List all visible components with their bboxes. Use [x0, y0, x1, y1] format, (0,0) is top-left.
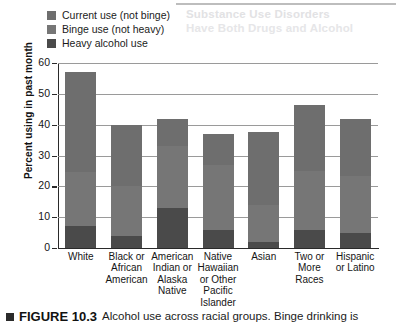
bar-segment-binge-use-not-heavy [111, 186, 142, 235]
bar-segment-current-use-not-binge [65, 72, 96, 172]
bar-segment-current-use-not-binge [203, 134, 234, 165]
y-tick-mark-40 [52, 125, 57, 126]
y-tick-label-20: 20 [10, 179, 50, 191]
y-tick-mark-50 [52, 94, 57, 95]
stacked-bar-chart: Percent using in past month 010203040506… [0, 0, 396, 325]
bar-segment-heavy-alcohol-use [294, 230, 325, 249]
bar-segment-binge-use-not-heavy [157, 146, 188, 208]
y-tick-label-40: 40 [10, 118, 50, 130]
y-tick-mark-0 [52, 248, 57, 249]
bar-segment-heavy-alcohol-use [65, 226, 96, 248]
figure-caption-text: Alcohol use across racial groups. Binge … [102, 309, 358, 323]
bar-segment-binge-use-not-heavy [340, 176, 371, 233]
bar-segment-heavy-alcohol-use [203, 230, 234, 249]
y-tick-mark-60 [52, 63, 57, 64]
plot-area [58, 63, 378, 248]
bar-two-or-more-races [294, 105, 325, 248]
y-tick-label-0: 0 [10, 241, 50, 253]
bar-segment-binge-use-not-heavy [203, 165, 234, 230]
bar-segment-heavy-alcohol-use [111, 236, 142, 248]
bar-segment-binge-use-not-heavy [294, 171, 325, 230]
bar-segment-current-use-not-binge [248, 132, 279, 204]
bar-black-or-african-american [111, 125, 142, 248]
bar-segment-current-use-not-binge [111, 125, 142, 187]
bar-hispanic-or-latino [340, 119, 371, 249]
y-tick-label-60: 60 [10, 56, 50, 68]
x-axis-label-line: Islander [190, 297, 246, 308]
x-axis-line [58, 248, 379, 249]
y-tick-label-10: 10 [10, 210, 50, 222]
bar-segment-binge-use-not-heavy [65, 172, 96, 226]
y-axis-title: Percent using in past month [23, 26, 34, 196]
bar-segment-current-use-not-binge [340, 119, 371, 176]
bar-group [58, 63, 378, 248]
x-axis-label-line: Pacific [190, 285, 246, 296]
x-axis-label-6: Hispanicor Latino [327, 251, 383, 274]
y-tick-label-30: 30 [10, 149, 50, 161]
y-tick-label-50: 50 [10, 87, 50, 99]
bar-white [65, 72, 96, 248]
bar-segment-heavy-alcohol-use [248, 242, 279, 248]
bar-asian [248, 132, 279, 248]
x-axis-label-line: or Latino [327, 262, 383, 273]
bar-segment-binge-use-not-heavy [248, 205, 279, 242]
figure-caption: FIGURE 10.3 Alcohol use across racial gr… [6, 309, 396, 324]
bar-american-indian-or-alaska-native [157, 119, 188, 249]
x-axis-label-line: Races [282, 274, 338, 285]
bar-segment-current-use-not-binge [157, 119, 188, 147]
bar-segment-heavy-alcohol-use [340, 233, 371, 248]
y-tick-mark-10 [52, 217, 57, 218]
y-tick-mark-30 [52, 156, 57, 157]
caption-square-icon [6, 313, 14, 321]
x-axis-label-line: Hawaiian [190, 262, 246, 273]
bar-segment-current-use-not-binge [294, 105, 325, 171]
x-axis-label-line: Hispanic [327, 251, 383, 262]
y-tick-mark-20 [52, 186, 57, 187]
x-axis-label-line: or Other [190, 274, 246, 285]
figure-number: FIGURE 10.3 [19, 309, 97, 324]
bar-native-hawaiian-or-other-pacific-islander [203, 134, 234, 248]
bar-segment-heavy-alcohol-use [157, 208, 188, 248]
